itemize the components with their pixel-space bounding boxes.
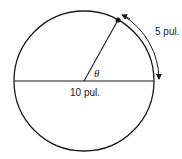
point-on-circle xyxy=(115,17,120,22)
arc-length-label: 5 pul. xyxy=(155,26,179,37)
circle-diagram: 5 pul. θ 10 pul. xyxy=(0,0,182,159)
arc-length-arrow xyxy=(124,16,159,79)
diameter-label: 10 pul. xyxy=(70,87,100,98)
angle-label: θ xyxy=(94,67,100,79)
arc-length-arrow-start xyxy=(122,15,130,19)
radius-line xyxy=(84,20,118,81)
